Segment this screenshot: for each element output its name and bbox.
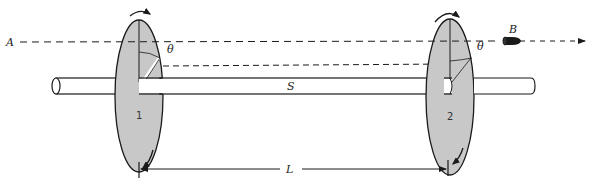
label-b: B [508, 23, 517, 36]
label-disc-2: 2 [447, 111, 453, 122]
shaft-right-stub [474, 78, 535, 94]
label-shaft: S [287, 80, 295, 93]
bullet-icon [503, 37, 521, 45]
label-a: A [5, 36, 14, 49]
label-theta-2: θ [477, 40, 484, 53]
label-disc-1: 1 [136, 110, 142, 121]
rotation-arrow-icon [130, 11, 150, 16]
bullet-path-line [20, 41, 495, 42]
slit-reference-line [163, 64, 450, 66]
separation-dimension [139, 160, 448, 178]
label-theta-1: θ [167, 43, 174, 56]
disc-2 [426, 13, 474, 175]
label-l: L [285, 163, 293, 176]
disc-bullet-diagram: A B S θ θ 1 2 L [0, 0, 594, 186]
